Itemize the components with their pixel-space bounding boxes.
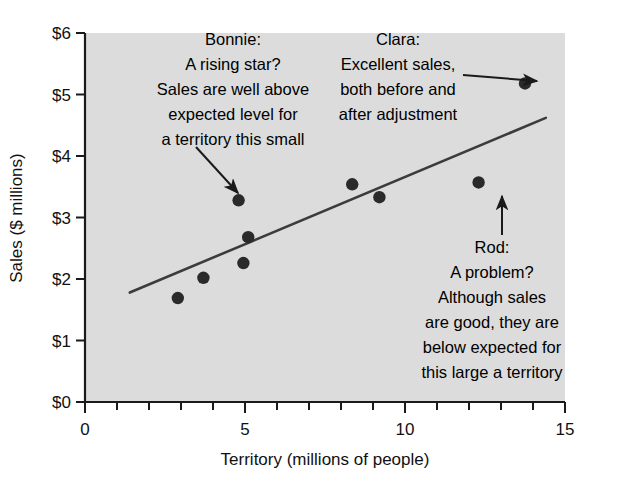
annotation-rod-line-5: this large a territory xyxy=(421,363,563,381)
data-point xyxy=(237,257,249,269)
annotation-bonnie-line-4: a territory this small xyxy=(161,130,304,148)
annotation-rod-line-1: A problem? xyxy=(450,263,533,281)
annotation-clara-line-2: both before and xyxy=(340,80,456,98)
x-tick-label: 5 xyxy=(240,420,249,439)
annotation-rod-line-4: below expected for xyxy=(423,338,562,356)
y-tick-label: $4 xyxy=(52,147,71,166)
data-point xyxy=(373,191,385,203)
chart-canvas: $0$1$2$3$4$5$6 051015 Bonnie: A rising s… xyxy=(0,0,620,487)
scatter-chart-figure: $0$1$2$3$4$5$6 051015 Bonnie: A rising s… xyxy=(0,0,620,487)
data-point-rod xyxy=(472,176,484,188)
annotation-clara-line-1: Excellent sales, xyxy=(341,55,456,73)
y-tick-label: $1 xyxy=(52,332,71,351)
data-point-bonnie xyxy=(232,194,244,206)
x-tick-label: 0 xyxy=(80,420,89,439)
annotation-rod-line-3: are good, they are xyxy=(425,313,559,331)
x-tick-label: 15 xyxy=(556,420,575,439)
annotation-rod-line-0: Rod: xyxy=(475,238,510,256)
annotation-bonnie-line-3: expected level for xyxy=(168,105,298,123)
annotation-bonnie-line-0: Bonnie: xyxy=(205,30,261,48)
y-tick-label: $6 xyxy=(52,24,71,43)
x-axis-title: Territory (millions of people) xyxy=(221,450,430,469)
y-axis-ticks: $0$1$2$3$4$5$6 xyxy=(52,24,85,412)
x-axis-ticks: 051015 xyxy=(80,402,574,439)
annotation-bonnie-line-1: A rising star? xyxy=(185,55,280,73)
data-point xyxy=(242,231,254,243)
data-point xyxy=(346,178,358,190)
y-tick-label: $2 xyxy=(52,270,71,289)
annotation-clara-line-3: after adjustment xyxy=(339,105,458,123)
data-point xyxy=(197,272,209,284)
y-axis-title: Sales ($ millions) xyxy=(7,153,26,282)
annotation-clara-line-0: Clara: xyxy=(376,30,420,48)
y-tick-label: $5 xyxy=(52,86,71,105)
y-tick-label: $3 xyxy=(52,209,71,228)
y-tick-label: $0 xyxy=(52,393,71,412)
x-tick-label: 10 xyxy=(396,420,415,439)
annotation-rod-line-2: Although sales xyxy=(438,288,546,306)
data-point xyxy=(172,292,184,304)
annotation-bonnie-line-2: Sales are well above xyxy=(157,80,309,98)
